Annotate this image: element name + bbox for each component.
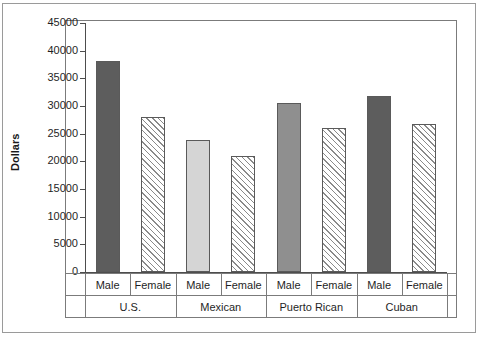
bar-series <box>85 23 447 273</box>
axis-label-sex: Male <box>176 274 221 296</box>
axis-separator <box>447 274 448 296</box>
chart-figure: Dollars 45000400003500030000250002000015… <box>0 0 480 341</box>
bar-puerto-rican-female <box>322 128 346 272</box>
y-axis-title: Dollars <box>4 112 26 192</box>
y-tick-label: 0 <box>72 265 78 277</box>
bar-mexican-male <box>186 140 210 272</box>
axis-separator <box>357 296 358 318</box>
y-tick-label: 45000 <box>47 16 78 28</box>
y-tick-label: 25000 <box>47 127 78 139</box>
bar-u-s--female <box>141 117 165 272</box>
axis-label-group: Mexican <box>176 296 267 318</box>
axis-separator <box>221 274 222 296</box>
axis-separator <box>311 274 312 296</box>
axis-label-sex: Female <box>221 274 266 296</box>
axis-label-sex: Male <box>357 274 402 296</box>
bar-mexican-female <box>231 156 255 272</box>
axis-separator <box>85 296 86 318</box>
y-tick-label: 10000 <box>47 210 78 222</box>
axis-separator <box>85 274 86 296</box>
bar-u-s--male <box>96 61 120 272</box>
axis-label-sex: Female <box>311 274 356 296</box>
axis-separator <box>402 274 403 296</box>
axis-label-sex: Female <box>402 274 447 296</box>
axis-label-sex: Male <box>266 274 311 296</box>
axis-separator <box>176 296 177 318</box>
axis-label-group: Cuban <box>357 296 448 318</box>
y-tick-label: 5000 <box>54 237 78 249</box>
axis-label-group: U.S. <box>85 296 176 318</box>
y-tick-label: 40000 <box>47 44 78 56</box>
axis-separator <box>266 274 267 296</box>
bar-cuban-male <box>367 96 391 273</box>
plot-area: 4500040000350003000025000200001500010000… <box>85 23 447 273</box>
y-tick-label: 35000 <box>47 71 78 83</box>
y-tick-label: 20000 <box>47 154 78 166</box>
bar-puerto-rican-male <box>277 103 301 272</box>
bar-cuban-female <box>412 124 436 272</box>
axis-separator <box>130 274 131 296</box>
axis-separator <box>447 296 448 318</box>
y-tick-label: 30000 <box>47 99 78 111</box>
axis-label-sex: Female <box>130 274 175 296</box>
axis-separator <box>176 274 177 296</box>
y-tick-label: 15000 <box>47 182 78 194</box>
axis-label-sex: Male <box>85 274 130 296</box>
axis-separator <box>266 296 267 318</box>
axis-separator <box>357 274 358 296</box>
axis-label-group: Puerto Rican <box>266 296 357 318</box>
